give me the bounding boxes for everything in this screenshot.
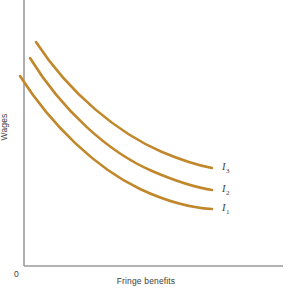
- x-axis-label: Fringe benefits: [0, 277, 292, 286]
- curve-label-i3-subscript: 3: [226, 167, 230, 175]
- y-axis-label: Wages: [0, 112, 9, 142]
- plot-canvas: [0, 0, 292, 296]
- curve-label-i2: I2: [222, 184, 229, 195]
- curve-label-i2-base: I: [222, 183, 226, 194]
- curve-label-i3-base: I: [222, 161, 226, 172]
- indifference-curve-i1: [20, 76, 212, 209]
- indifference-curve-i3: [36, 42, 212, 168]
- curve-label-i3: I3: [222, 162, 229, 173]
- curve-label-i1: I1: [222, 203, 229, 214]
- origin-label: 0: [14, 270, 19, 279]
- curve-label-i1-base: I: [222, 202, 226, 213]
- curve-label-i1-subscript: 1: [226, 208, 230, 216]
- indifference-curve-figure: Fringe benefits Wages 0 I1 I2 I3: [0, 0, 292, 296]
- curve-label-i2-subscript: 2: [226, 189, 230, 197]
